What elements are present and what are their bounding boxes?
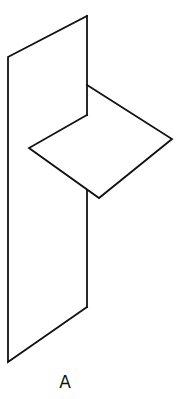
vertical-plane-outline <box>8 16 87 362</box>
intersecting-planes-diagram <box>0 0 182 399</box>
figure-label: A <box>0 372 130 392</box>
horizontal-plane-outline <box>29 85 172 198</box>
